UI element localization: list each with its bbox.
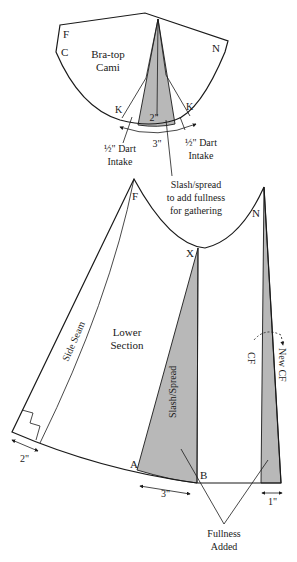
lower-point-f-label: F [132, 190, 138, 202]
right-angle-mark [22, 410, 40, 440]
hem-1-inch-label: 1" [268, 496, 277, 507]
bra-top-piece: F C N Bra-top Cami K K 2" 3" ½" Dart Int… [56, 13, 228, 176]
point-b-label: B [200, 469, 207, 481]
lower-section-piece: F N X A B Lower Section Side Seam Slash/… [12, 179, 288, 552]
pattern-diagram: F C N Bra-top Cami K K 2" 3" ½" Dart Int… [0, 0, 297, 562]
fullness-leader-right [224, 460, 268, 524]
left-dart-intake-line1: ½" Dart [104, 143, 136, 154]
point-n-label: N [212, 42, 220, 54]
hem-2-inch-label: 2" [20, 453, 29, 464]
right-dart-intake-line1: ½" Dart [185, 137, 217, 148]
slash-callout-leader [166, 120, 172, 176]
new-cf-label: New CF [277, 348, 288, 382]
point-k-left-label: K [115, 104, 123, 115]
right-dart-leader [180, 117, 185, 130]
callout-line1: Slash/spread [171, 179, 222, 190]
cami-label: Cami [96, 61, 120, 73]
dart-depth-label: 2" [149, 112, 158, 123]
point-a-label: A [130, 458, 138, 470]
slash-spread-label: Slash/Spread [167, 366, 178, 418]
slash-spread-wedge [137, 248, 198, 483]
lower-point-n-label: N [252, 207, 260, 219]
hem-3-inch-label: 3" [161, 488, 170, 499]
fullness-added-line2: Added [211, 541, 238, 552]
callout-line2: to add fullness [167, 192, 225, 203]
callout-line3: for gathering [170, 205, 222, 216]
lower-label: Lower [113, 326, 142, 338]
side-seam-inner-line [40, 179, 134, 443]
point-f-label: F [63, 28, 69, 40]
right-dart-intake-line2: Intake [189, 150, 215, 161]
point-x-label: X [186, 247, 194, 259]
bra-top-label: Bra-top [91, 48, 125, 60]
fullness-leader-left [181, 449, 224, 524]
dart-shaded-wedge [138, 19, 175, 126]
slash-spread-callout: Slash/spread to add fullness for gatheri… [167, 179, 225, 216]
section-label: Section [111, 339, 144, 351]
side-seam-label: Side Seam [60, 319, 87, 362]
arc-width-label: 3" [152, 138, 161, 149]
point-c-label: C [61, 46, 68, 58]
left-dart-intake-line2: Intake [108, 156, 134, 167]
point-k-right-label: K [186, 101, 194, 112]
cf-label: CF [246, 352, 257, 365]
fullness-added-line1: Fullness [207, 528, 240, 539]
